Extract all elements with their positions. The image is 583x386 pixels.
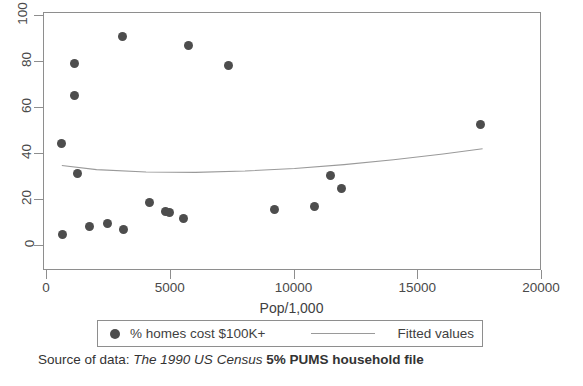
data-point — [184, 41, 193, 50]
y-axis-tick — [34, 153, 43, 154]
y-axis-tick-label: 20 — [19, 190, 34, 205]
legend-label-homes-cost: % homes cost $100K+ — [130, 326, 265, 341]
y-axis-tick — [34, 245, 43, 246]
x-axis-tick — [46, 270, 47, 279]
data-point — [270, 205, 279, 214]
scatter-plot-figure: 020406080100 05000100001500020000 Pop/1,… — [0, 0, 583, 386]
x-axis-tick-label: 0 — [42, 280, 50, 295]
x-axis-tick — [294, 270, 295, 279]
data-point — [179, 214, 188, 223]
y-axis-tick-label: 60 — [19, 98, 34, 113]
legend-entry-homes-cost: % homes cost $100K+ — [110, 326, 265, 341]
y-axis-tick — [34, 15, 43, 16]
data-point — [58, 230, 67, 239]
data-point — [70, 59, 79, 68]
x-axis-title: Pop/1,000 — [0, 300, 583, 316]
legend-entry-fitted-values: Fitted values — [311, 326, 474, 341]
x-axis-tick-label: 20000 — [522, 280, 560, 295]
y-axis-tick-label-wrap: 0 — [0, 236, 34, 251]
line-swatch-icon — [311, 333, 375, 334]
y-axis-tick-label-wrap: 40 — [0, 144, 34, 159]
source-publication: The 1990 US Census — [133, 352, 262, 367]
x-axis-tick-label: 10000 — [275, 280, 313, 295]
x-axis-tick-label: 5000 — [155, 280, 185, 295]
x-axis-tick — [417, 270, 418, 279]
data-point — [103, 219, 112, 228]
y-axis-tick-label-wrap: 20 — [0, 190, 34, 205]
plot-area — [43, 12, 541, 270]
data-point — [145, 198, 154, 207]
y-axis-tick — [34, 107, 43, 108]
x-axis-tick — [541, 270, 542, 279]
fitted-values-line — [44, 13, 542, 271]
y-axis-tick-label-wrap: 100 — [0, 6, 34, 21]
x-axis-tick-label: 15000 — [398, 280, 436, 295]
y-axis-tick — [34, 199, 43, 200]
y-axis-tick-label: 0 — [23, 240, 38, 248]
data-point — [337, 184, 346, 193]
data-point — [476, 120, 485, 129]
data-point — [70, 91, 79, 100]
chart-legend: % homes cost $100K+ Fitted values — [97, 320, 483, 347]
filled-circle-icon — [110, 329, 120, 339]
y-axis-tick-label: 100 — [15, 2, 30, 25]
y-axis-tick-label: 80 — [19, 52, 34, 67]
y-axis-tick-label-wrap: 60 — [0, 98, 34, 113]
x-axis-tick — [170, 270, 171, 279]
source-prefix: Source of data: — [38, 352, 130, 367]
data-point — [85, 222, 94, 231]
y-axis-tick — [34, 61, 43, 62]
source-note: Source of data: The 1990 US Census 5% PU… — [38, 352, 424, 367]
y-axis-tick-label: 40 — [19, 144, 34, 159]
y-axis-tick-label-wrap: 80 — [0, 52, 34, 67]
legend-label-fitted-values: Fitted values — [397, 326, 474, 341]
y-axis-tick-labels: 020406080100 — [0, 0, 36, 386]
source-dataset: 5% PUMS household file — [266, 352, 424, 367]
